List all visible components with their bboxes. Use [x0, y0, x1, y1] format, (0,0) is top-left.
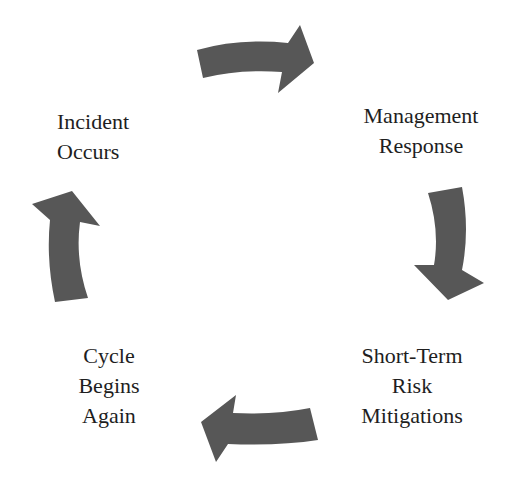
stage-mitigations-line-1: Short-Term [337, 341, 487, 371]
stage-mitigations-line-2: Risk [337, 371, 487, 401]
stage-management-response: Management Response [346, 101, 496, 161]
stage-cycle-line-3: Again [59, 401, 159, 431]
cycle-diagram: Incident Occurs Management Response Shor… [0, 0, 515, 481]
stage-management-line-2: Response [346, 131, 496, 161]
stage-cycle-begins-again: Cycle Begins Again [59, 341, 159, 431]
stage-cycle-line-2: Begins [59, 371, 159, 401]
arrow-left-icon [201, 395, 318, 462]
arrow-up-icon [32, 191, 100, 302]
stage-incident-occurs: Incident Occurs [57, 107, 129, 167]
stage-incident-line-1: Incident [57, 107, 129, 137]
stage-incident-line-2: Occurs [57, 137, 129, 167]
arrow-right-icon [197, 25, 314, 93]
stage-mitigations-line-3: Mitigations [337, 401, 487, 431]
arrow-down-icon [414, 187, 484, 300]
stage-cycle-line-1: Cycle [59, 341, 159, 371]
stage-management-line-1: Management [346, 101, 496, 131]
stage-short-term-risk-mitigations: Short-Term Risk Mitigations [337, 341, 487, 431]
